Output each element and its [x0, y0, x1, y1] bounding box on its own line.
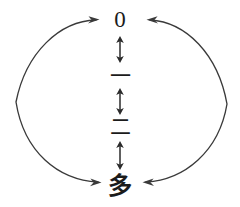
right-arc: [143, 16, 228, 186]
node-label-many: 多: [0, 174, 240, 198]
vertical-connector-zero-one: [116, 36, 124, 63]
node-label-two: 二: [0, 117, 240, 138]
vertical-connector-two-many: [116, 141, 124, 170]
vertical-connector-one-two: [116, 88, 124, 115]
node-label-zero: 0: [0, 8, 240, 31]
diagram-canvas: 0 一 二 多: [0, 0, 240, 207]
left-arc: [16, 16, 102, 186]
node-label-one: 一: [0, 66, 240, 87]
